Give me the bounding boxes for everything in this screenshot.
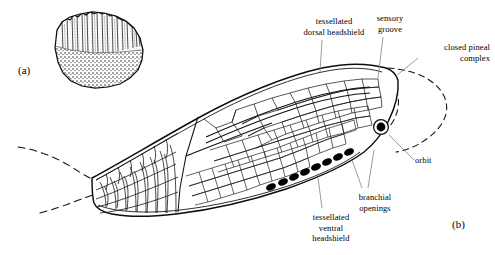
leader-branchial-1 bbox=[352, 160, 362, 188]
label-branchial-openings: branchial openings bbox=[348, 192, 402, 213]
reconstructed-body-outline bbox=[18, 147, 96, 213]
label-tessellated-ventral-headshield: tessellated ventral headshield bbox=[296, 212, 366, 244]
orbit-marker bbox=[374, 120, 389, 135]
illustration-canvas bbox=[0, 0, 495, 255]
label-sensory-groove: sensory groove bbox=[368, 13, 412, 34]
label-orbit: orbit bbox=[415, 155, 449, 166]
label-tessellated-dorsal-headshield: tessellated dorsal headshield bbox=[296, 16, 372, 37]
leader-branchial-2 bbox=[368, 150, 374, 188]
label-closed-pineal-complex: closed pineal complex bbox=[412, 42, 490, 63]
leader-ventral-headshield bbox=[318, 178, 322, 208]
panel-tag-b: (b) bbox=[452, 218, 465, 230]
leader-dorsal-headshield bbox=[320, 40, 322, 72]
figure-container: tessellated dorsal headshield sensory gr… bbox=[0, 0, 495, 255]
fossil-specimen-drawing bbox=[50, 8, 150, 94]
leader-orbit bbox=[389, 135, 414, 160]
panel-tag-a: (a) bbox=[18, 64, 30, 76]
